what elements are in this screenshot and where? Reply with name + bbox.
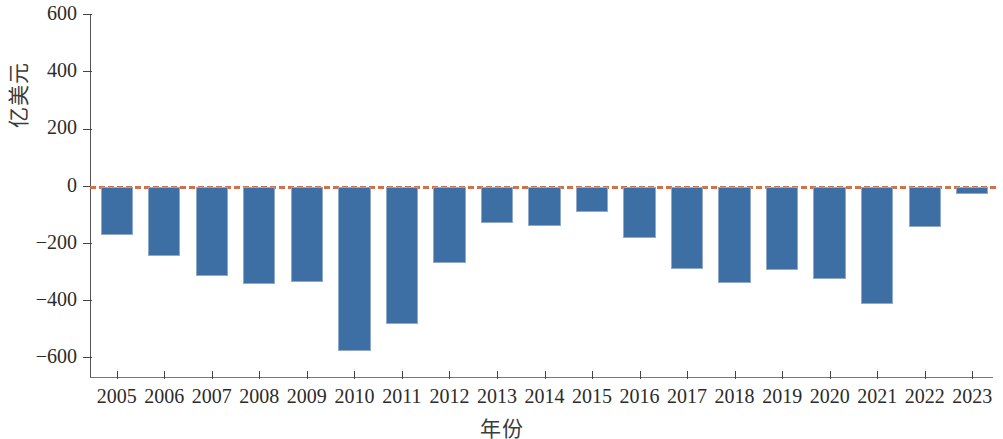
bar <box>623 187 655 239</box>
x-axis-tick-label: 2023 <box>942 385 1002 407</box>
x-axis-tick <box>782 371 783 379</box>
y-axis-tick <box>83 14 92 15</box>
x-axis-tick <box>497 371 498 379</box>
bar <box>101 187 133 236</box>
x-axis-tick <box>687 371 688 379</box>
y-axis-tick-label: −600 <box>15 346 77 366</box>
bar <box>291 187 323 282</box>
x-axis-tick <box>117 371 118 379</box>
bar <box>766 187 798 270</box>
x-axis-tick <box>354 371 355 379</box>
y-axis-tick <box>83 357 92 358</box>
x-axis-tick <box>925 371 926 379</box>
bar <box>528 187 560 227</box>
x-axis-tick <box>877 371 878 379</box>
x-axis-tick <box>449 371 450 379</box>
y-axis-label: 亿美元 <box>2 30 32 160</box>
bar-chart: 亿美元 6004002000−200−400−600 2005200620072… <box>0 0 1003 439</box>
bar <box>386 187 418 324</box>
y-axis-tick <box>83 300 92 301</box>
bar <box>718 187 750 283</box>
bar <box>196 187 228 276</box>
y-axis-tick <box>83 71 92 72</box>
x-axis-tick <box>212 371 213 379</box>
y-axis-tick-label: 400 <box>15 60 77 80</box>
bar <box>481 187 513 224</box>
x-axis-tick <box>402 371 403 379</box>
x-axis-tick <box>972 371 973 379</box>
y-axis-tick-label: 200 <box>15 117 77 137</box>
x-axis-tick <box>735 371 736 379</box>
y-axis-tick-label: 0 <box>15 175 77 195</box>
x-axis-tick <box>164 371 165 379</box>
x-axis-tick <box>259 371 260 379</box>
bar <box>861 187 893 305</box>
bar <box>813 187 845 279</box>
bar <box>243 187 275 284</box>
x-axis-tick <box>830 371 831 379</box>
y-axis-tick-label: 600 <box>15 3 77 23</box>
x-axis-tick <box>592 371 593 379</box>
bar <box>671 187 703 269</box>
y-axis-tick <box>83 129 92 130</box>
bar <box>338 187 370 351</box>
x-axis-tick <box>307 371 308 379</box>
y-axis-tick-label: −200 <box>15 232 77 252</box>
bar <box>148 187 180 256</box>
x-axis-tick <box>640 371 641 379</box>
bar <box>909 187 941 228</box>
bar <box>433 187 465 264</box>
x-axis-tick <box>545 371 546 379</box>
y-axis-tick <box>83 243 92 244</box>
bar <box>956 187 988 194</box>
bar <box>576 187 608 212</box>
y-axis-tick-label: −400 <box>15 289 77 309</box>
x-axis-label: 年份 <box>0 412 1003 439</box>
